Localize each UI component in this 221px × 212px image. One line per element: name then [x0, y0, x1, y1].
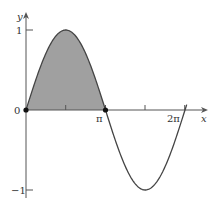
- sine-chart: y 1 0 π 2π x −1: [0, 0, 221, 212]
- x-axis-label: x: [201, 113, 207, 124]
- x-label-two-pi: 2π: [167, 113, 180, 124]
- x-label-pi: π: [96, 113, 103, 124]
- origin-point: [23, 107, 28, 112]
- shaded-area: [26, 30, 106, 110]
- pi-point: [103, 107, 108, 112]
- y-label-neg-one: −1: [11, 185, 26, 196]
- origin-label: 0: [14, 105, 20, 116]
- y-axis-label: y: [16, 11, 23, 22]
- y-label-one: 1: [16, 25, 22, 36]
